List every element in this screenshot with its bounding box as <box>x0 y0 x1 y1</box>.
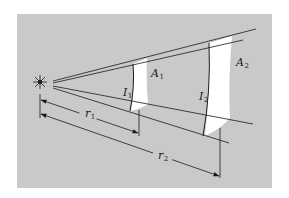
label-i1-sub: 1 <box>128 92 132 100</box>
label-i1: I1 <box>123 87 132 100</box>
label-i2: I2 <box>199 91 208 104</box>
label-r1-sub: 1 <box>91 113 95 121</box>
label-a1-main: A <box>151 67 159 80</box>
light-source-icon <box>33 75 47 89</box>
label-i2-sub: 2 <box>204 96 208 104</box>
label-a2-sub: 2 <box>244 62 248 70</box>
dimension-extension-lines <box>40 94 220 178</box>
label-r2: r2 <box>158 150 168 163</box>
label-i1-main: I <box>123 86 127 99</box>
label-r1-main: r <box>85 107 90 120</box>
label-a1: A1 <box>151 68 164 81</box>
label-i2-main: I <box>199 90 203 103</box>
label-a2-main: A <box>236 56 244 69</box>
figure-canvas: A1 I1 A2 I2 r1 r2 <box>0 0 289 198</box>
label-a2: A2 <box>236 57 249 70</box>
label-r2-sub: 2 <box>164 155 168 163</box>
r2-dimension-line <box>41 114 219 176</box>
inverse-square-diagram <box>0 0 289 198</box>
label-r1: r1 <box>85 108 95 121</box>
label-r2-main: r <box>158 149 163 162</box>
label-a1-sub: 1 <box>159 73 163 81</box>
